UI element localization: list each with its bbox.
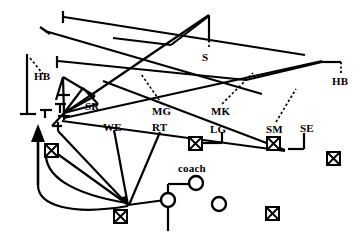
label-se: SE bbox=[300, 123, 314, 134]
crossed-box bbox=[189, 137, 202, 150]
label-sr: SR bbox=[85, 101, 99, 112]
label-we: WE bbox=[103, 122, 122, 133]
crossed-box bbox=[266, 207, 279, 220]
label-lg: LG bbox=[210, 124, 226, 135]
label-hb-left: HB bbox=[34, 71, 50, 82]
label-sm: SM bbox=[266, 124, 283, 135]
circle-markers bbox=[161, 176, 226, 211]
circle-ball bbox=[161, 193, 175, 207]
se-bracket bbox=[288, 133, 304, 149]
arrow-up-icon bbox=[31, 124, 45, 185]
crossed-box bbox=[327, 152, 340, 165]
converging-routes-bottom bbox=[52, 130, 165, 206]
sweep-curve bbox=[38, 152, 128, 210]
crossed-box bbox=[45, 144, 58, 157]
label-mg: MG bbox=[152, 106, 171, 117]
crossed-box bbox=[267, 137, 280, 150]
label-hb-right: HB bbox=[332, 76, 348, 87]
route-line-top-3 bbox=[57, 56, 322, 80]
label-s: S bbox=[202, 52, 208, 63]
hb-right-route bbox=[322, 62, 341, 74]
hb-left-post bbox=[20, 54, 43, 114]
play-diagram-canvas: HB HB S SR MG MK WE RT LG SM SE coach bbox=[0, 0, 363, 243]
circle-right bbox=[212, 197, 226, 211]
circle-coach bbox=[189, 176, 203, 190]
route-line-lg-sm bbox=[62, 121, 285, 151]
coach-group bbox=[168, 184, 196, 231]
label-rt: RT bbox=[152, 122, 167, 133]
crossed-box bbox=[114, 210, 127, 223]
label-mk: MK bbox=[211, 106, 230, 117]
label-coach: coach bbox=[178, 163, 206, 174]
